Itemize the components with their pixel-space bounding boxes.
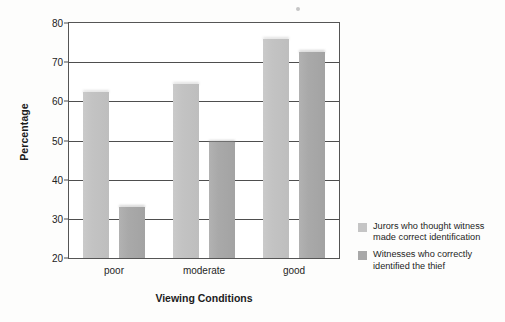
bar-poor-series-1 [119, 207, 145, 258]
series-0-swatch [358, 223, 367, 232]
bar-poor-series-0 [83, 92, 109, 258]
bar-moderate-series-0 [173, 84, 199, 258]
x-axis-tick-label-moderate: moderate [183, 265, 225, 276]
y-axis-tick-label: 80 [52, 18, 63, 29]
y-axis-tick-mark [64, 258, 69, 259]
bar-good-series-0 [263, 39, 289, 258]
y-axis-tick-label: 40 [52, 174, 63, 185]
legend-item-0: Jurors who thought witnessmade correct i… [358, 221, 503, 243]
y-axis-tick-label: 20 [52, 253, 63, 264]
x-axis-title: Viewing Conditions [68, 292, 340, 304]
scan-speck-artifact [296, 7, 300, 11]
y-axis-tick-label: 50 [52, 135, 63, 146]
y-axis-tick-label: 60 [52, 96, 63, 107]
y-axis-tick-mark [64, 218, 69, 219]
y-axis-title: Percentage [18, 82, 30, 182]
bar-moderate-series-1 [209, 142, 235, 258]
y-axis-tick-mark [64, 62, 69, 63]
x-axis-tick-label-good: good [283, 265, 305, 276]
y-axis-tick-mark [64, 101, 69, 102]
legend-item-label: Jurors who thought witnessmade correct i… [373, 221, 484, 243]
plot-area: 20304050607080poormoderategood [68, 22, 340, 259]
legend-item-1: Witnesses who correctlyidentified the th… [358, 249, 503, 271]
y-axis-tick-mark [64, 140, 69, 141]
bar-chart-figure: Percentage 20304050607080poormoderategoo… [0, 0, 505, 322]
x-axis-tick-label-poor: poor [104, 265, 124, 276]
y-axis-tick-label: 70 [52, 57, 63, 68]
bar-good-series-1 [299, 52, 325, 258]
y-axis-tick-mark [64, 23, 69, 24]
y-axis-tick-mark [64, 179, 69, 180]
legend-item-label: Witnesses who correctlyidentified the th… [373, 249, 472, 271]
y-axis-tick-label: 30 [52, 213, 63, 224]
series-1-swatch [358, 251, 367, 260]
chart-legend: Jurors who thought witnessmade correct i… [358, 221, 503, 278]
